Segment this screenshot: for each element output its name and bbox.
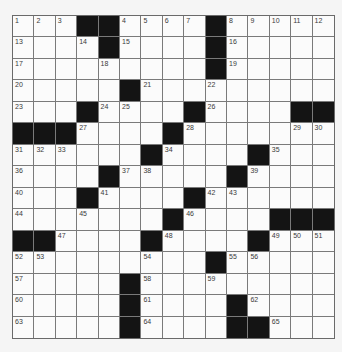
grid-cell[interactable] xyxy=(206,166,227,187)
grid-cell[interactable] xyxy=(270,188,291,209)
grid-cell[interactable] xyxy=(77,59,98,80)
grid-cell[interactable]: 61 xyxy=(141,295,162,316)
grid-cell[interactable]: 18 xyxy=(99,59,120,80)
grid-cell[interactable] xyxy=(227,80,248,101)
grid-cell[interactable] xyxy=(227,123,248,144)
grid-cell[interactable] xyxy=(77,80,98,101)
grid-cell[interactable] xyxy=(184,231,205,252)
grid-cell[interactable] xyxy=(313,295,334,316)
grid-cell[interactable] xyxy=(270,80,291,101)
grid-cell[interactable] xyxy=(270,59,291,80)
grid-cell[interactable]: 14 xyxy=(77,37,98,58)
grid-cell[interactable] xyxy=(184,317,205,338)
grid-cell[interactable]: 59 xyxy=(206,274,227,295)
grid-cell[interactable] xyxy=(34,295,55,316)
grid-cell[interactable] xyxy=(313,317,334,338)
grid-cell[interactable]: 26 xyxy=(206,102,227,123)
grid-cell[interactable] xyxy=(56,102,77,123)
grid-cell[interactable]: 64 xyxy=(141,317,162,338)
grid-cell[interactable]: 7 xyxy=(184,16,205,37)
grid-cell[interactable] xyxy=(248,188,269,209)
grid-cell[interactable] xyxy=(248,59,269,80)
grid-cell[interactable] xyxy=(34,59,55,80)
grid-cell[interactable]: 65 xyxy=(270,317,291,338)
grid-cell[interactable]: 30 xyxy=(313,123,334,144)
grid-cell[interactable]: 45 xyxy=(77,209,98,230)
grid-cell[interactable] xyxy=(120,209,141,230)
grid-cell[interactable] xyxy=(291,274,312,295)
grid-cell[interactable] xyxy=(141,59,162,80)
grid-cell[interactable] xyxy=(313,37,334,58)
grid-cell[interactable] xyxy=(120,145,141,166)
grid-cell[interactable] xyxy=(291,59,312,80)
grid-cell[interactable]: 11 xyxy=(291,16,312,37)
grid-cell[interactable]: 1 xyxy=(13,16,34,37)
grid-cell[interactable]: 13 xyxy=(13,37,34,58)
grid-cell[interactable]: 4 xyxy=(120,16,141,37)
grid-cell[interactable]: 58 xyxy=(141,274,162,295)
grid-cell[interactable] xyxy=(163,274,184,295)
grid-cell[interactable] xyxy=(270,102,291,123)
grid-cell[interactable] xyxy=(34,209,55,230)
grid-cell[interactable] xyxy=(56,209,77,230)
grid-cell[interactable] xyxy=(291,252,312,273)
grid-cell[interactable]: 2 xyxy=(34,16,55,37)
grid-cell[interactable]: 57 xyxy=(13,274,34,295)
grid-cell[interactable] xyxy=(291,145,312,166)
grid-cell[interactable] xyxy=(141,188,162,209)
grid-cell[interactable] xyxy=(248,123,269,144)
grid-cell[interactable] xyxy=(206,317,227,338)
grid-cell[interactable] xyxy=(99,123,120,144)
grid-cell[interactable] xyxy=(99,317,120,338)
grid-cell[interactable] xyxy=(56,188,77,209)
grid-cell[interactable] xyxy=(270,274,291,295)
grid-cell[interactable]: 39 xyxy=(248,166,269,187)
grid-cell[interactable] xyxy=(34,102,55,123)
grid-cell[interactable] xyxy=(56,166,77,187)
grid-cell[interactable] xyxy=(56,295,77,316)
grid-cell[interactable] xyxy=(206,209,227,230)
grid-cell[interactable] xyxy=(120,188,141,209)
grid-cell[interactable]: 12 xyxy=(313,16,334,37)
grid-cell[interactable]: 55 xyxy=(227,252,248,273)
grid-cell[interactable] xyxy=(184,166,205,187)
grid-cell[interactable] xyxy=(227,102,248,123)
grid-cell[interactable] xyxy=(206,295,227,316)
grid-cell[interactable] xyxy=(206,123,227,144)
grid-cell[interactable] xyxy=(270,37,291,58)
grid-cell[interactable] xyxy=(184,37,205,58)
grid-cell[interactable] xyxy=(227,274,248,295)
grid-cell[interactable] xyxy=(77,145,98,166)
grid-cell[interactable]: 8 xyxy=(227,16,248,37)
grid-cell[interactable] xyxy=(270,252,291,273)
grid-cell[interactable]: 47 xyxy=(56,231,77,252)
grid-cell[interactable] xyxy=(34,188,55,209)
grid-cell[interactable]: 60 xyxy=(13,295,34,316)
grid-cell[interactable]: 56 xyxy=(248,252,269,273)
grid-cell[interactable] xyxy=(120,123,141,144)
grid-cell[interactable] xyxy=(313,166,334,187)
grid-cell[interactable] xyxy=(99,209,120,230)
grid-cell[interactable]: 5 xyxy=(141,16,162,37)
grid-cell[interactable] xyxy=(120,252,141,273)
grid-cell[interactable] xyxy=(163,252,184,273)
grid-cell[interactable]: 15 xyxy=(120,37,141,58)
grid-cell[interactable] xyxy=(163,59,184,80)
grid-cell[interactable] xyxy=(184,80,205,101)
grid-cell[interactable] xyxy=(120,59,141,80)
grid-cell[interactable]: 29 xyxy=(291,123,312,144)
grid-cell[interactable]: 23 xyxy=(13,102,34,123)
grid-cell[interactable] xyxy=(291,317,312,338)
grid-cell[interactable]: 31 xyxy=(13,145,34,166)
grid-cell[interactable] xyxy=(163,317,184,338)
grid-cell[interactable] xyxy=(291,37,312,58)
grid-cell[interactable] xyxy=(184,59,205,80)
grid-cell[interactable]: 20 xyxy=(13,80,34,101)
grid-cell[interactable]: 3 xyxy=(56,16,77,37)
grid-cell[interactable]: 63 xyxy=(13,317,34,338)
grid-cell[interactable]: 17 xyxy=(13,59,34,80)
grid-cell[interactable]: 33 xyxy=(56,145,77,166)
grid-cell[interactable] xyxy=(56,252,77,273)
grid-cell[interactable] xyxy=(34,37,55,58)
grid-cell[interactable] xyxy=(163,295,184,316)
